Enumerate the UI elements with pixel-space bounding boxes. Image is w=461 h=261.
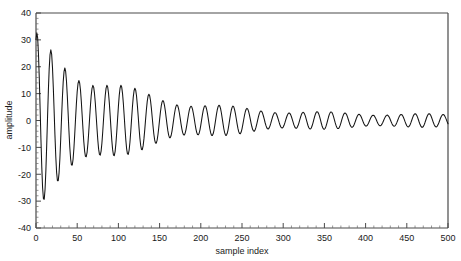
y-tick-label: 40	[21, 8, 31, 18]
y-tick-label: -10	[18, 143, 31, 153]
x-tick-label: 400	[358, 233, 373, 243]
y-tick-label: 20	[21, 62, 31, 72]
chart-figure: 050100150200250300350400450500 -40-30-20…	[0, 0, 461, 261]
x-tick-label: 150	[152, 233, 167, 243]
y-tick-label: 10	[21, 89, 31, 99]
x-axis-title: sample index	[215, 246, 269, 256]
x-tick-label: 200	[193, 233, 208, 243]
x-tick-label: 300	[276, 233, 291, 243]
y-tick-label: 0	[26, 116, 31, 126]
x-tick-label: 500	[440, 233, 455, 243]
y-tick-label: -40	[18, 223, 31, 233]
x-tick-label: 100	[111, 233, 126, 243]
y-tick-label: -30	[18, 196, 31, 206]
y-axis-title: amplitude	[4, 100, 14, 139]
x-tick-label: 50	[72, 233, 82, 243]
x-tick-label: 0	[33, 233, 38, 243]
x-tick-label: 250	[234, 233, 249, 243]
x-tick-label: 350	[317, 233, 332, 243]
y-tick-label: 30	[21, 35, 31, 45]
x-tick-label: 450	[399, 233, 414, 243]
y-tick-label: -20	[18, 170, 31, 180]
